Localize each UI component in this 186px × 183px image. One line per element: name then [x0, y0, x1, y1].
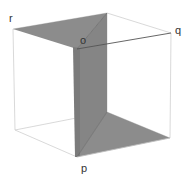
vertex-label-o: o	[80, 35, 86, 46]
vertical-plane-front-strip	[73, 47, 80, 157]
vertex-label-r: r	[9, 13, 13, 24]
cube-diagram	[0, 0, 186, 183]
vertex-label-p: p	[81, 163, 87, 174]
vertex-label-q: q	[175, 25, 181, 36]
